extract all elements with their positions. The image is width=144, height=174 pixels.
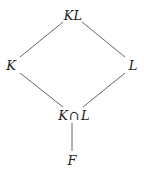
lattice-edges bbox=[0, 0, 144, 174]
node-k-intersect-l: K∩L bbox=[58, 109, 89, 122]
field-lattice-diagram: KL K L K∩L F bbox=[0, 0, 144, 174]
edge-l-kcapl bbox=[83, 73, 125, 107]
intersection-symbol: ∩ bbox=[69, 108, 80, 123]
edge-kl-k bbox=[20, 22, 63, 57]
node-k: K bbox=[6, 59, 16, 72]
node-k-intersect-l-right: L bbox=[81, 108, 90, 123]
edge-k-kcapl bbox=[20, 73, 63, 107]
node-f: F bbox=[67, 154, 76, 167]
node-l: L bbox=[129, 59, 138, 72]
node-kl: KL bbox=[64, 9, 82, 22]
node-k-intersect-l-left: K bbox=[58, 108, 68, 123]
edge-kl-l bbox=[82, 22, 125, 57]
